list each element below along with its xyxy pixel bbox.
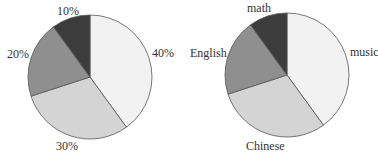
label-left-math: 10% — [57, 4, 79, 18]
pie-charts: 10% 40% 20% 30% math music English Chine… — [0, 0, 378, 155]
label-right-chinese: Chinese — [246, 139, 285, 153]
label-right-english: English — [190, 46, 227, 60]
label-right-music: music — [350, 45, 378, 59]
label-left-chinese: 30% — [56, 139, 78, 153]
pie-chart-subjects — [225, 13, 349, 137]
pie-chart-percent — [28, 15, 152, 139]
label-right-math: math — [247, 1, 271, 15]
label-left-music: 40% — [152, 46, 174, 60]
label-left-english: 20% — [7, 47, 29, 61]
